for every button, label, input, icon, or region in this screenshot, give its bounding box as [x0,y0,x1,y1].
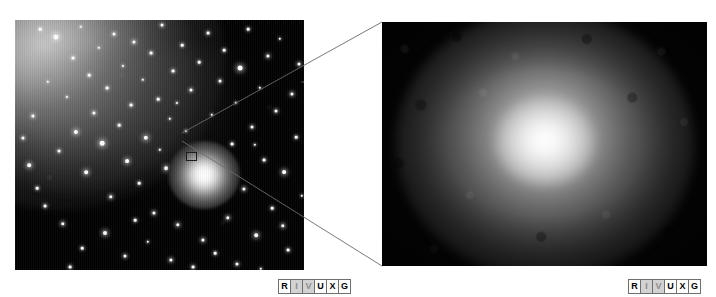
star [124,255,127,258]
nucleus-core [497,100,593,184]
star [214,252,217,255]
spectrum-band-i: I [641,280,652,293]
star [238,66,243,71]
star [58,150,61,153]
star [231,143,234,146]
star [190,89,193,92]
star [84,170,88,174]
star [164,166,168,170]
star [157,98,160,101]
star [118,124,121,127]
star [247,28,250,31]
star [192,266,195,269]
star [259,87,261,89]
star [223,49,226,52]
spectrum-band-g: G [339,280,350,293]
star [263,159,266,162]
star [235,102,237,104]
star [219,80,222,83]
star [172,70,175,73]
star [27,163,31,167]
star [260,268,262,270]
star [150,52,153,55]
star [22,137,25,140]
star [282,170,286,174]
star [236,263,239,266]
star [295,136,298,139]
star [207,32,210,35]
star [39,28,42,31]
star [271,207,274,210]
star [275,110,278,113]
star [100,141,105,146]
star [130,104,133,107]
star [44,205,47,208]
star [254,233,258,237]
spectrum-band-u: U [315,280,326,293]
star [169,258,172,261]
star [152,211,155,214]
star [113,33,116,36]
star [134,219,137,222]
star [287,249,290,252]
star [201,238,204,241]
left-wide-field-image[interactable] [15,20,304,270]
spectrum-band-v: V [303,280,314,293]
star [281,224,284,227]
diffraction-spike-horizontal [300,81,304,83]
spectrum-band-r: R [629,280,640,293]
star [266,54,269,57]
star [36,187,39,190]
star [61,222,64,225]
spectrum-band-x: X [327,280,338,293]
star [88,74,91,77]
region-of-interest-box[interactable] [186,152,197,161]
star [161,24,164,27]
star [298,63,301,66]
star [72,57,75,60]
compact-bright-object [168,141,240,209]
star [69,266,72,269]
spectrum-band-r: R [279,280,290,293]
star [138,182,141,185]
star [301,195,303,197]
star [198,61,201,64]
star [103,231,107,235]
star [81,247,84,250]
spectrum-band-u: U [665,280,676,293]
spectrum-band-g: G [689,280,700,293]
spectrum-band-x: X [677,280,688,293]
star [181,44,184,47]
star [279,38,281,40]
spectrum-label-right: RIVUXG [628,279,701,294]
right-closeup-image[interactable] [382,22,707,266]
star [226,216,229,219]
star [147,241,149,243]
star [106,87,109,90]
spectrum-band-v: V [653,280,664,293]
star [251,126,254,129]
spectrum-band-i: I [291,280,302,293]
star [254,144,256,146]
star [176,223,179,226]
star [290,92,293,95]
star [125,159,129,163]
star [242,187,245,190]
astronomy-two-panel-figure: RIVUXG RIVUXG [0,0,716,297]
spectrum-label-left: RIVUXG [278,279,351,294]
